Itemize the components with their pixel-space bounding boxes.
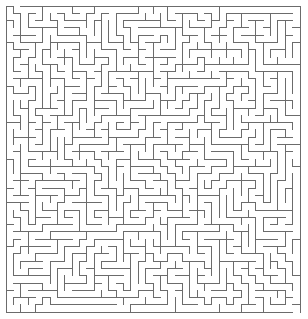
maze-grid <box>0 0 308 319</box>
maze-walls <box>6 6 300 312</box>
maze <box>0 0 308 319</box>
